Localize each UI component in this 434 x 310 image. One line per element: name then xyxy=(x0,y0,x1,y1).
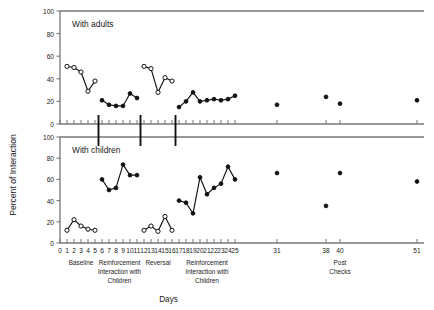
data-point xyxy=(149,67,153,71)
y-tick-label: 60 xyxy=(47,176,55,183)
series-4 xyxy=(177,90,237,108)
data-point xyxy=(142,64,146,68)
phase-caption-line: Interaction with xyxy=(186,268,229,275)
data-point xyxy=(177,199,181,203)
y-tick-label: 100 xyxy=(43,8,54,15)
data-point xyxy=(65,228,69,232)
y-tick-label: 20 xyxy=(47,219,55,226)
panel-1-data xyxy=(65,64,419,109)
y-tick-label: 40 xyxy=(47,198,55,205)
x-tick-label: 6 xyxy=(100,247,104,254)
x-tick-label: 0 xyxy=(58,247,62,254)
data-point xyxy=(415,98,419,102)
y-tick-label: 40 xyxy=(47,76,55,83)
series-line xyxy=(144,66,172,92)
data-point xyxy=(72,218,76,222)
phase-dividers xyxy=(99,115,176,146)
phase-captions: BaselineReinforcementInteraction withChi… xyxy=(69,259,351,284)
data-point xyxy=(135,173,139,177)
data-point xyxy=(79,224,83,228)
x-tick-label: 40 xyxy=(336,247,344,254)
data-point xyxy=(177,105,181,109)
series-5 xyxy=(275,171,419,208)
panel-2-data xyxy=(65,163,419,234)
series-3 xyxy=(142,214,174,233)
data-point xyxy=(212,97,216,101)
axis-titles: DaysPercent of Interaction xyxy=(8,134,178,304)
data-point xyxy=(121,163,125,167)
data-point xyxy=(163,214,167,218)
series-2 xyxy=(100,163,139,192)
phase-caption-line: Children xyxy=(195,277,219,284)
x-tick-label: 9 xyxy=(121,247,125,254)
phase-caption-line: Reinforcement xyxy=(186,259,228,266)
data-point xyxy=(107,188,111,192)
panel-1-y-axis-ticks: 020406080100 xyxy=(43,8,60,128)
data-point xyxy=(170,228,174,232)
y-tick-label: 0 xyxy=(50,121,54,128)
y-tick-label: 80 xyxy=(47,31,55,38)
data-point xyxy=(275,171,279,175)
data-point xyxy=(324,204,328,208)
data-point xyxy=(163,76,167,80)
data-point xyxy=(170,79,174,83)
data-point xyxy=(156,90,160,94)
data-point xyxy=(100,178,104,182)
figure-root: 0204060801000204060801000123456789101112… xyxy=(0,0,434,310)
x-tick-label: 25 xyxy=(231,247,239,254)
data-point xyxy=(93,79,97,83)
y-tick-label: 0 xyxy=(50,240,54,247)
series-1 xyxy=(65,218,97,233)
phase-caption-line: Checks xyxy=(329,268,350,275)
series-2 xyxy=(100,92,139,108)
x-tick-label: 1 xyxy=(65,247,69,254)
phase-caption-line: Baseline xyxy=(69,259,94,266)
data-point xyxy=(233,94,237,98)
panel-title-2: With children xyxy=(72,145,121,155)
panel-titles: With adultsWith children xyxy=(72,19,121,155)
phase-caption-line: Reinforcement xyxy=(99,259,141,266)
phase-caption-line: Reversal xyxy=(145,259,170,266)
data-point xyxy=(212,186,216,190)
x-axis-tick-labels: 0123456789101112131415161718192021222324… xyxy=(58,247,421,254)
data-point xyxy=(65,64,69,68)
data-point xyxy=(86,89,90,93)
data-point xyxy=(100,98,104,102)
x-axis-title: Days xyxy=(159,295,178,304)
data-point xyxy=(191,211,195,215)
y-axis-title: Percent of Interaction xyxy=(8,134,18,216)
data-point xyxy=(72,65,76,69)
data-point xyxy=(233,178,237,182)
data-point xyxy=(121,104,125,108)
phase-caption-line: Interaction with xyxy=(98,268,141,275)
y-tick-label: 80 xyxy=(47,155,55,162)
data-point xyxy=(86,227,90,231)
data-point xyxy=(184,100,188,104)
data-point xyxy=(226,97,230,101)
data-point xyxy=(114,104,118,108)
x-tick-label: 38 xyxy=(322,247,330,254)
data-point xyxy=(135,96,139,100)
data-point xyxy=(198,175,202,179)
x-tick-label: 5 xyxy=(93,247,97,254)
data-point xyxy=(205,192,209,196)
data-point xyxy=(156,229,160,233)
data-point xyxy=(128,173,132,177)
y-tick-label: 100 xyxy=(43,134,54,141)
data-point xyxy=(219,98,223,102)
series-4 xyxy=(177,165,237,215)
data-point xyxy=(93,228,97,232)
data-point xyxy=(324,95,328,99)
y-tick-label: 20 xyxy=(47,98,55,105)
data-point xyxy=(275,103,279,107)
series-3 xyxy=(142,64,174,94)
data-point xyxy=(149,224,153,228)
data-point xyxy=(191,90,195,94)
data-point xyxy=(184,201,188,205)
series-5 xyxy=(275,95,419,107)
panel-2-y-axis-ticks: 020406080100 xyxy=(43,134,60,247)
data-point xyxy=(79,70,83,74)
x-tick-label: 51 xyxy=(413,247,421,254)
data-point xyxy=(338,102,342,106)
x-tick-label: 2 xyxy=(72,247,76,254)
